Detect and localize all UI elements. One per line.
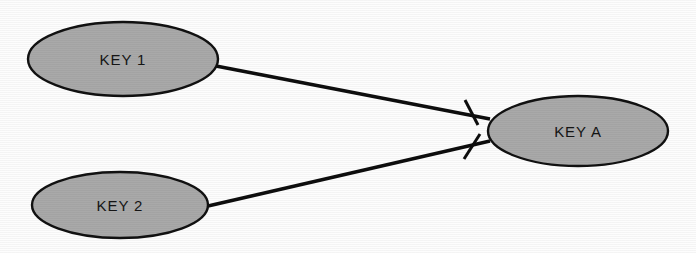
entity-label-key-a: KEY A [554, 123, 602, 140]
entity-label-key-2: KEY 2 [97, 197, 144, 214]
relationship-line-key-2-to-key-a[interactable] [208, 141, 490, 206]
entity-key-1[interactable]: KEY 1 [28, 22, 218, 96]
entity-label-key-1: KEY 1 [100, 51, 147, 68]
er-diagram: KEY 1 KEY 2 KEY A [0, 0, 696, 253]
cardinality-tick-icon-key-1 [465, 100, 478, 125]
entity-key-a[interactable]: KEY A [488, 96, 668, 166]
relationship-line-key-1-to-key-a[interactable] [216, 66, 490, 119]
entity-key-2[interactable]: KEY 2 [32, 172, 208, 238]
diagram-canvas: KEY 1 KEY 2 KEY A [0, 0, 696, 253]
